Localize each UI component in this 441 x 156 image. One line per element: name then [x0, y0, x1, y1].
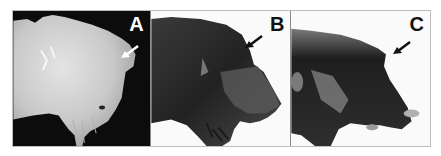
arrow-icon-b	[245, 35, 263, 49]
arrow-icon-c	[393, 41, 411, 55]
panel-c: C	[290, 11, 430, 146]
figure-three-panels: A B	[12, 10, 431, 147]
arrow-icon-a	[121, 45, 139, 59]
panel-label-a: A	[129, 14, 143, 34]
panel-a: A	[13, 11, 150, 146]
panel-b: B	[150, 11, 291, 146]
panel-label-b: B	[270, 14, 284, 34]
panel-label-c: C	[410, 14, 424, 34]
